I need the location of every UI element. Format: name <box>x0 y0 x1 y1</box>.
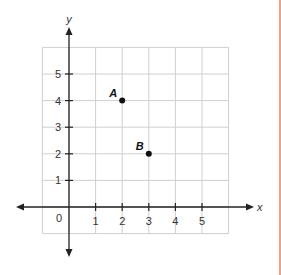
y-tick-label: 2 <box>55 148 61 160</box>
tick-labels: 12345123450 <box>55 68 205 227</box>
point-a <box>119 98 125 104</box>
y-tick-label: 1 <box>55 174 61 186</box>
panel-border <box>279 0 281 275</box>
axes: xy <box>16 13 263 257</box>
y-axis-label: y <box>65 13 73 25</box>
x-tick-label: 5 <box>199 215 205 227</box>
y-tick-label: 4 <box>55 95 61 107</box>
x-tick-label: 2 <box>119 215 125 227</box>
point-label-b: B <box>136 140 144 152</box>
arrow-down-icon <box>66 249 73 257</box>
x-tick-label: 1 <box>93 215 99 227</box>
coordinate-plane: xy 12345123450 AB <box>0 0 281 275</box>
x-axis-label: x <box>256 201 263 213</box>
arrow-up-icon <box>66 27 73 35</box>
arrow-right-icon <box>246 204 254 211</box>
x-tick-label: 3 <box>146 215 152 227</box>
y-tick-label: 5 <box>55 68 61 80</box>
data-points: AB <box>108 87 152 157</box>
point-label-a: A <box>108 87 117 99</box>
point-b <box>146 151 152 157</box>
origin-label: 0 <box>56 212 62 224</box>
y-tick-label: 3 <box>55 121 61 133</box>
x-tick-label: 4 <box>172 215 178 227</box>
tick-marks <box>65 74 202 211</box>
arrow-left-icon <box>16 204 24 211</box>
